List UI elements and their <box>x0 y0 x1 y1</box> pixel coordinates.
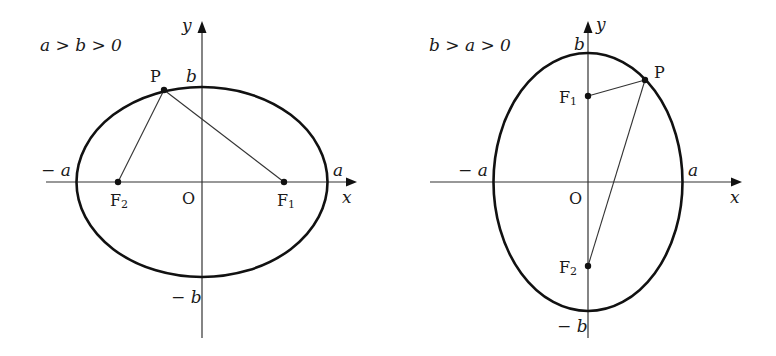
x-axis-arrow-icon <box>346 178 357 187</box>
label-F1: F 1 <box>559 88 577 108</box>
svg-text:F: F <box>559 88 570 107</box>
svg-text:F: F <box>110 191 121 210</box>
label-neg-b: − b <box>557 316 588 336</box>
label-x-axis: x <box>342 187 352 207</box>
condition-label: a > b > 0 <box>40 35 122 55</box>
x-axis-arrow-icon <box>731 178 742 187</box>
label-F2: F 2 <box>110 191 128 211</box>
segment-PF2 <box>118 90 164 182</box>
segment-PF1 <box>588 80 645 96</box>
point-F1 <box>281 179 287 185</box>
svg-text:1: 1 <box>570 95 577 108</box>
segment-PF1 <box>164 90 284 182</box>
y-axis-arrow-icon <box>584 21 593 33</box>
point-F2 <box>585 263 591 269</box>
diagram-horizontal-ellipse: a > b > 0 P b − a a x y O − b F 2 F 1 <box>40 15 357 338</box>
svg-text:2: 2 <box>570 265 577 278</box>
label-pos-a: a <box>333 160 343 180</box>
label-pos-b: b <box>574 34 585 54</box>
svg-text:1: 1 <box>288 198 295 211</box>
point-P <box>642 77 648 83</box>
label-neg-a: − a <box>41 160 71 180</box>
segment-PF2 <box>588 80 645 266</box>
label-neg-a: − a <box>458 160 488 180</box>
label-pos-a: a <box>688 160 698 180</box>
condition-label: b > a > 0 <box>429 35 511 55</box>
diagram-vertical-ellipse: b > a > 0 P b y − a a x O − b F 1 F 2 <box>429 14 742 338</box>
svg-text:2: 2 <box>121 198 128 211</box>
ellipse-diagrams: a > b > 0 P b − a a x y O − b F 2 F 1 <box>0 0 776 356</box>
label-origin: O <box>569 189 582 208</box>
label-origin: O <box>182 189 195 208</box>
label-neg-b: − b <box>171 287 202 307</box>
svg-text:F: F <box>559 258 570 277</box>
label-F1: F 1 <box>277 191 295 211</box>
point-P <box>161 87 167 93</box>
svg-text:F: F <box>277 191 288 210</box>
label-y-axis: y <box>595 14 606 34</box>
point-F1 <box>585 93 591 99</box>
label-x-axis: x <box>730 187 740 207</box>
label-F2: F 2 <box>559 258 577 278</box>
label-pos-b: b <box>186 66 197 86</box>
y-axis-arrow-icon <box>198 21 207 33</box>
label-y-axis: y <box>181 15 192 35</box>
point-F2 <box>115 179 121 185</box>
label-P: P <box>150 67 161 86</box>
label-P: P <box>654 63 665 82</box>
